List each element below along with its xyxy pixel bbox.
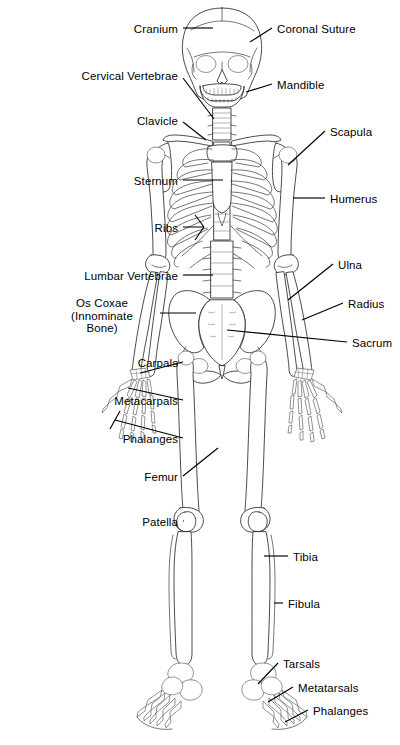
- label-cervical-vertebrae: Cervical Vertebrae: [82, 70, 178, 83]
- label-os-coxae-line1: Os Coxae: [71, 297, 133, 310]
- label-ribs: Ribs: [155, 222, 178, 235]
- tibia-left: [174, 532, 192, 665]
- orbit-right: [228, 56, 248, 73]
- label-radius: Radius: [348, 298, 384, 311]
- cervical-vertebrae-group: [208, 108, 236, 140]
- label-sacrum: Sacrum: [352, 337, 392, 350]
- carpals-left: [130, 368, 150, 380]
- label-scapula: Scapula: [330, 126, 372, 139]
- cervical-transverse-right: [231, 115, 236, 135]
- skeleton-illustration: [0, 0, 400, 745]
- rib-right-9: [242, 241, 270, 267]
- label-humerus: Humerus: [330, 193, 377, 206]
- label-clavicle: Clavicle: [137, 115, 178, 128]
- label-cranium: Cranium: [134, 23, 178, 36]
- elbow-joint-right: [274, 255, 298, 275]
- label-sternum: Sternum: [134, 175, 178, 188]
- label-os-coxae-line2: (Innominate: [71, 310, 133, 323]
- left-leg-group: [137, 351, 203, 729]
- navicular-right: [261, 677, 282, 695]
- label-tibia: Tibia: [293, 551, 318, 564]
- label-fibula: Fibula: [288, 598, 320, 611]
- tibia-right: [252, 532, 270, 665]
- cervical-transverse-left: [208, 115, 213, 135]
- carpals-right: [294, 368, 314, 380]
- orbit-left: [196, 56, 216, 73]
- label-coronal-suture: Coronal Suture: [277, 23, 356, 36]
- humerus-head-right: [279, 147, 297, 163]
- label-phalanges-hand: Phalanges: [123, 433, 178, 446]
- label-mandible: Mandible: [277, 79, 324, 92]
- right-arm-group: [274, 147, 342, 442]
- navicular-left: [162, 677, 183, 695]
- lumbar-vertebrae-group: [203, 241, 241, 298]
- femur-head-right: [250, 351, 266, 365]
- label-metatarsals: Metatarsals: [298, 682, 359, 695]
- leader-scapula: [288, 131, 325, 165]
- right-leg-group: [241, 351, 307, 729]
- lumbar-column: [211, 241, 233, 298]
- humerus-head-left: [147, 147, 165, 163]
- label-patella: Patella: [142, 516, 178, 529]
- calcaneus-left: [180, 680, 202, 700]
- floating-rib-right: [230, 252, 254, 268]
- rib-left-9: [174, 241, 202, 267]
- label-ulna: Ulna: [338, 259, 362, 272]
- label-os-coxae-line3: Bone): [71, 322, 133, 335]
- label-lumbar-vertebrae: Lumbar Vertebrae: [84, 270, 178, 283]
- label-tarsals: Tarsals: [283, 658, 320, 671]
- patella-left: [177, 512, 196, 532]
- label-carpals: Carpals: [138, 357, 178, 370]
- metacarpals-right: [292, 379, 326, 398]
- label-os-coxae: Os Coxae (Innominate Bone): [71, 297, 133, 335]
- label-phalanges-foot: Phalanges: [313, 705, 368, 718]
- right-foot-group: [242, 663, 307, 729]
- clavicle-right: [232, 135, 281, 146]
- coccyx-bone: [219, 366, 225, 379]
- manubrium-bone: [207, 145, 237, 161]
- hand-phalanges-right: [288, 392, 342, 442]
- thorax-core-group: [207, 142, 237, 240]
- left-foot-group: [137, 663, 202, 729]
- skeleton-diagram: CraniumCervical VertebraeClavicleSternum…: [0, 0, 400, 745]
- clavicle-left: [163, 135, 212, 146]
- leader-radius: [302, 303, 343, 320]
- label-femur: Femur: [144, 471, 178, 484]
- label-metacarpals: Metacarpals: [114, 395, 178, 408]
- floating-rib-left: [190, 252, 214, 268]
- sternum-body-bone: [212, 162, 232, 213]
- patella-right: [248, 512, 267, 532]
- foot-phalanges-left: [137, 706, 146, 717]
- calcaneus-right: [242, 680, 264, 700]
